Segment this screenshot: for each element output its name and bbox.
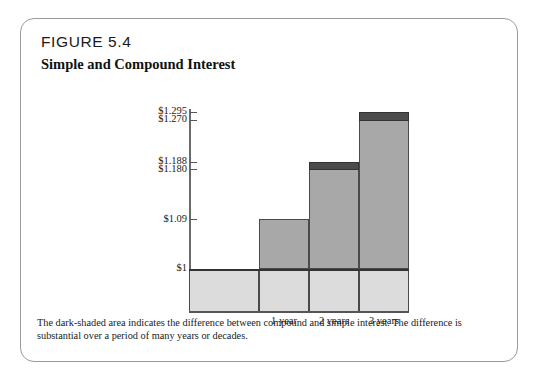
y-tick-mark (190, 169, 197, 170)
bar-principal-2-years (309, 269, 359, 311)
y-tick-mark (190, 219, 197, 220)
bar-principal-3-years (359, 269, 409, 311)
y-tick-mark (190, 120, 197, 121)
baseline-one-dollar (189, 269, 409, 271)
bar-interest-3-years (359, 120, 409, 269)
bar-compound-difference-2-years (309, 162, 359, 170)
bar-principal-base (189, 269, 259, 311)
bar-interest-2-years (309, 169, 359, 269)
x-axis-line (189, 311, 409, 313)
y-tick-mark (190, 112, 197, 113)
y-axis-line (189, 109, 191, 269)
y-tick-label-1: $1 (121, 262, 187, 273)
figure-caption: The dark-shaded area indicates the diffe… (37, 316, 503, 342)
figure-card: FIGURE 5.4 Simple and Compound Interest … (20, 18, 518, 362)
bar-principal-1-year (259, 269, 309, 311)
bar-interest-1-year (259, 219, 309, 269)
y-tick-label-109: $1.09 (121, 213, 187, 224)
chart-plot-area: $1.295 $1.270 $1.188 $1.180 $1.09 $1 1 y… (21, 19, 519, 363)
y-tick-mark (190, 162, 197, 163)
y-tick-label-1270: $1.270 (121, 113, 187, 124)
y-tick-label-1180: $1.180 (121, 163, 187, 174)
bar-compound-difference-3-years (359, 112, 409, 121)
